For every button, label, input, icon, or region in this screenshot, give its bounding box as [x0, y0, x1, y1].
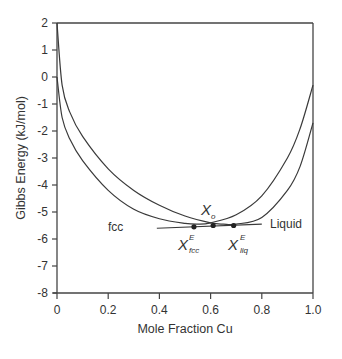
point-x-fcc-e: [191, 224, 196, 229]
y-tick-label: -6: [37, 232, 48, 246]
x-axis-title: Mole Fraction Cu: [137, 322, 232, 336]
fcc-label: fcc: [108, 220, 123, 234]
liquid-label: Liquid: [270, 217, 302, 231]
y-axis-ticks: 210-1-2-3-4-5-6-7-8: [37, 16, 57, 300]
y-tick-label: 1: [41, 43, 48, 57]
xfcc-label-sub: fcc: [189, 246, 199, 255]
xliq-label-sup: E: [240, 233, 246, 242]
xliq-label-sub: liq: [240, 246, 249, 255]
y-tick-label: -4: [37, 178, 48, 192]
common-tangent: [157, 224, 262, 228]
y-tick-label: -5: [37, 205, 48, 219]
y-axis-title: Gibbs Energy (kJ/mol): [14, 96, 28, 220]
point-x-o: [211, 223, 216, 228]
curve-liquid: [57, 23, 313, 225]
curves: [57, 23, 313, 225]
xliq-label-main: X: [227, 236, 239, 253]
x-tick-label: 0: [54, 303, 61, 317]
x-tick-label: 0.2: [100, 303, 117, 317]
y-tick-label: -1: [37, 97, 48, 111]
xo-label-sub: o: [211, 212, 216, 221]
x-tick-label: 0.4: [151, 303, 168, 317]
curve-fcc: [57, 77, 313, 224]
point-x-liq-e: [231, 223, 236, 228]
xfcc-label-main: X: [177, 236, 189, 253]
y-tick-label: -8: [37, 286, 48, 300]
y-tick-label: -7: [37, 259, 48, 273]
xliq-label: X E liq: [227, 233, 249, 255]
tangent-line: [157, 224, 262, 228]
x-tick-label: 0.6: [202, 303, 219, 317]
x-tick-label: 1.0: [305, 303, 322, 317]
y-tick-label: 2: [41, 16, 48, 30]
xfcc-label: X E fcc: [177, 233, 199, 255]
xfcc-label-sup: E: [189, 233, 195, 242]
x-tick-label: 0.8: [253, 303, 270, 317]
y-tick-label: -3: [37, 151, 48, 165]
y-tick-label: -2: [37, 124, 48, 138]
x-axis-ticks: 00.20.40.60.81.0: [54, 293, 322, 317]
gibbs-energy-chart: 00.20.40.60.81.0 210-1-2-3-4-5-6-7-8 Mol…: [0, 0, 342, 359]
xo-label: X o: [200, 201, 216, 221]
y-tick-label: 0: [41, 70, 48, 84]
